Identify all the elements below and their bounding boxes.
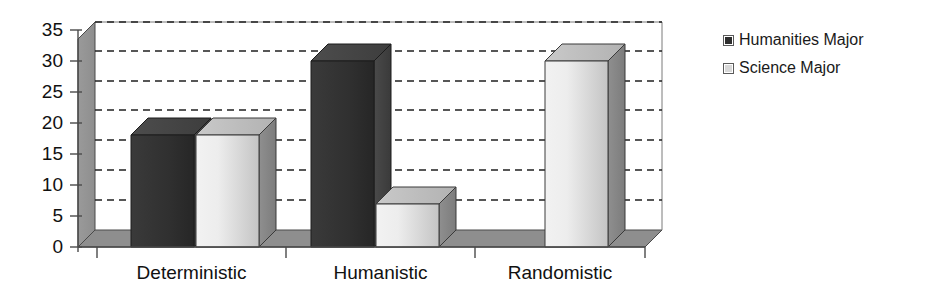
legend-item-humanities-major: Humanities Major [723,26,923,54]
light-square-icon [723,63,734,74]
x-category-label-randomistic: Randomistic [475,263,645,282]
x-category-label-humanistic: Humanistic [286,263,475,282]
chart-legend: Humanities Major Science Major [723,26,923,82]
x-category-label-deterministic: Deterministic [97,263,286,282]
bar-chart: 35 30 25 20 15 10 5 0 Deterministic Huma… [0,0,925,293]
legend-item-science-major: Science Major [723,54,923,82]
legend-label: Humanities Major [739,32,863,48]
legend-label: Science Major [739,60,840,76]
dark-square-icon [723,35,734,46]
